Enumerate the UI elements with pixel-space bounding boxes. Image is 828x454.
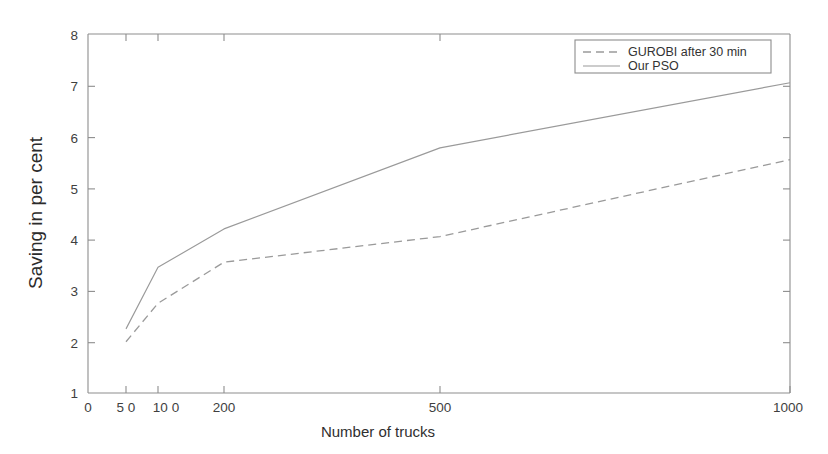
x-tick-labels: 0 5 0 10 0 200 500 1000: [84, 400, 803, 415]
x-axis-title: Number of trucks: [321, 423, 435, 440]
chart-svg: 1 2 3 4 5 6 7 8 0 5 0 10 0 200 500 1000 …: [0, 0, 828, 454]
x-tick-label-0: 0: [84, 400, 92, 415]
y-tick-marks: [88, 86, 790, 342]
y-tick-label-8: 8: [70, 28, 78, 43]
plot-frame: [88, 34, 790, 393]
x-tick-label-100: 10 0: [153, 400, 179, 415]
series-line-our-pso: [126, 83, 790, 329]
y-tick-label-4: 4: [70, 233, 78, 248]
x-tick-marks: [126, 34, 790, 393]
x-tick-label-200: 200: [213, 400, 236, 415]
y-tick-label-2: 2: [70, 336, 78, 351]
y-tick-label-7: 7: [70, 79, 78, 94]
x-tick-label-50: 5 0: [117, 400, 136, 415]
series-line-gurobi: [126, 160, 790, 342]
y-axis-title: Saving in per cent: [25, 136, 46, 289]
y-tick-label-3: 3: [70, 284, 78, 299]
chart-legend: GUROBI after 30 min Our PSO: [575, 40, 771, 73]
legend-label-gurobi: GUROBI after 30 min: [628, 45, 747, 59]
y-tick-labels: 1 2 3 4 5 6 7 8: [70, 28, 78, 401]
y-tick-label-6: 6: [70, 131, 78, 146]
legend-label-our-pso: Our PSO: [628, 59, 679, 73]
x-tick-label-500: 500: [429, 400, 452, 415]
y-tick-label-1: 1: [70, 386, 78, 401]
chart-figure: 1 2 3 4 5 6 7 8 0 5 0 10 0 200 500 1000 …: [0, 0, 828, 454]
x-tick-label-1000: 1000: [773, 400, 803, 415]
y-tick-label-5: 5: [70, 182, 78, 197]
